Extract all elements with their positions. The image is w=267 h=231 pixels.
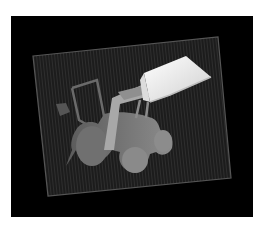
front-wheel-right [154, 130, 172, 152]
rear-wheel [76, 126, 108, 166]
front-wheel-left [122, 147, 148, 173]
image-frame [11, 16, 253, 217]
depth-render [11, 16, 253, 217]
